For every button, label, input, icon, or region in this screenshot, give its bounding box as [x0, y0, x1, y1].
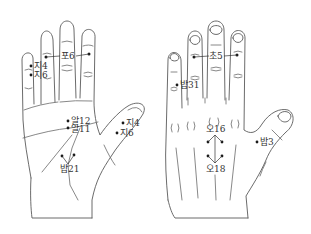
- point-cho5: 초5: [193, 51, 239, 61]
- acupoint-marker: [122, 122, 125, 125]
- point-al11: 알11: [67, 124, 91, 134]
- acupoint-marker: [30, 65, 33, 68]
- palm-hand: 포6 지4 지6 알12 알11 밥21 지4 지: [22, 21, 144, 218]
- label-o16: 오16: [206, 124, 226, 134]
- label-ji4-thumb: 지4: [126, 118, 140, 128]
- nail: [170, 54, 179, 62]
- back-outline: [166, 21, 293, 218]
- label-ji6-thumb: 지6: [120, 128, 134, 138]
- label-ji6-finger: 지6: [34, 70, 48, 80]
- acupoint-marker: [116, 132, 119, 135]
- point-ji4-thumb: 지4: [122, 118, 140, 128]
- label-cho5: 초5: [209, 51, 223, 61]
- label-al11: 알11: [71, 124, 90, 134]
- acupoint-marker: [30, 74, 33, 77]
- point-bap31: 밥31: [176, 80, 200, 90]
- point-ji6-thumb: 지6: [116, 128, 134, 138]
- back-hand: 초5 밥31 오16 오18 밥3: [166, 21, 293, 218]
- hand-acupuncture-diagram: 포6 지4 지6 알12 알11 밥21 지4 지: [0, 0, 311, 234]
- acupoint-marker: [256, 141, 259, 144]
- point-ji6-finger: 지6: [30, 70, 48, 80]
- acupoint-marker: [67, 127, 70, 130]
- label-po6: 포6: [61, 51, 75, 61]
- nail: [190, 36, 200, 45]
- point-o16: 오16: [206, 124, 226, 143]
- label-bap3: 밥3: [260, 137, 274, 147]
- nail: [210, 26, 222, 35]
- acupoint-marker: [176, 84, 179, 87]
- acupoint-marker: [67, 120, 70, 123]
- nail: [233, 34, 243, 43]
- label-bap21: 밥21: [60, 164, 79, 174]
- point-bap3: 밥3: [256, 137, 274, 147]
- point-po6: 포6: [45, 51, 91, 61]
- label-bap31: 밥31: [180, 80, 199, 90]
- label-o18: 오18: [206, 164, 226, 174]
- nail: [278, 112, 291, 123]
